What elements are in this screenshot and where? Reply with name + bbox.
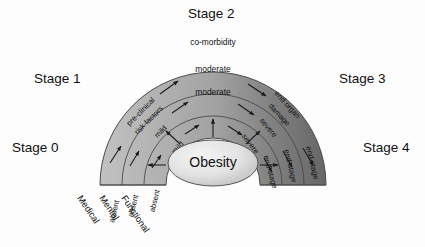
obesity-node: Obesity	[168, 140, 258, 186]
stage-label-stage2: Stage 2	[188, 6, 235, 21]
stage-label-stage1: Stage 1	[34, 71, 81, 86]
stage-label-stage0: Stage 0	[12, 140, 59, 155]
mental-cell-stage2: moderate	[195, 64, 231, 74]
diagram-canvas: absent pre-clinical risk factors co-morb…	[0, 0, 425, 247]
functional-cell-stage0: absent	[147, 188, 161, 213]
medical-cell-stage2: co-morbidity	[190, 37, 236, 47]
functional-cell-stage2: moderate	[195, 87, 231, 97]
obesity-staging-diagram: absent pre-clinical risk factors co-morb…	[0, 0, 425, 247]
stage-label-stage4: Stage 4	[363, 140, 410, 155]
stage-label-stage3: Stage 3	[339, 71, 386, 86]
obesity-label: Obesity	[189, 154, 236, 170]
